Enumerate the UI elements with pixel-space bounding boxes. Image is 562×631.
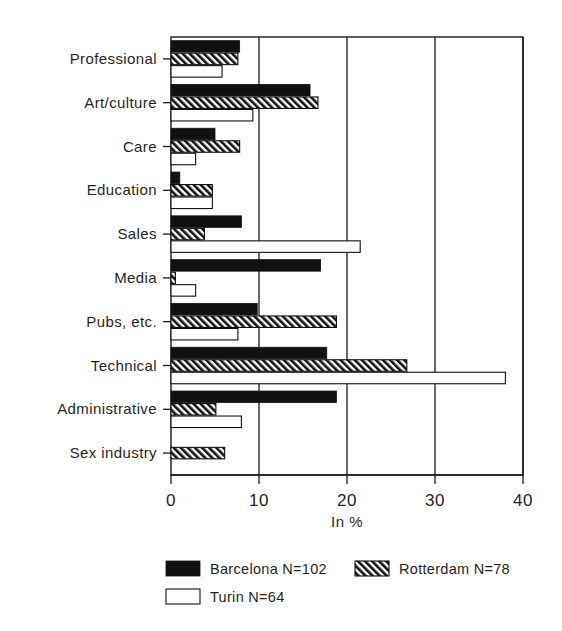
- bar-barcelona-art-culture: [171, 84, 310, 96]
- y-axis-labels: ProfessionalArt/cultureCareEducationSale…: [57, 50, 171, 461]
- x-tick-label-10: 10: [249, 491, 269, 510]
- bar-turin-art-culture: [171, 109, 253, 121]
- bar-rotterdam-administrative: [171, 404, 216, 416]
- legend-label-turin: Turin N=64: [210, 589, 285, 605]
- category-label-education: Education: [87, 181, 157, 198]
- bar-barcelona-pubs-etc: [171, 303, 257, 315]
- x-tick-label-0: 0: [166, 491, 176, 510]
- category-label-care: Care: [123, 138, 157, 155]
- bar-rotterdam-care: [171, 141, 240, 153]
- category-label-sex-industry: Sex industry: [70, 444, 157, 461]
- bar-barcelona-media: [171, 260, 321, 272]
- bar-turin-education: [171, 197, 212, 209]
- bar-rotterdam-professional: [171, 53, 238, 65]
- category-label-professional: Professional: [70, 50, 157, 67]
- category-label-art-culture: Art/culture: [84, 94, 157, 111]
- category-label-administrative: Administrative: [57, 400, 157, 417]
- bar-barcelona-administrative: [171, 391, 336, 403]
- category-label-pubs-etc: Pubs, etc.: [86, 313, 157, 330]
- legend-swatch-barcelona: [166, 561, 200, 576]
- bar-barcelona-professional: [171, 41, 240, 53]
- chart-container: ProfessionalArt/cultureCareEducationSale…: [0, 0, 562, 631]
- bars-layer: [171, 41, 505, 459]
- bar-turin-sales: [171, 241, 360, 253]
- legend-label-rotterdam: Rotterdam N=78: [399, 561, 510, 577]
- bar-turin-professional: [171, 66, 222, 78]
- bar-rotterdam-sex-industry: [171, 447, 225, 459]
- x-axis-title: In %: [331, 513, 363, 530]
- grouped-bar-chart: ProfessionalArt/cultureCareEducationSale…: [0, 0, 562, 631]
- bar-turin-technical: [171, 372, 505, 384]
- bar-rotterdam-art-culture: [171, 97, 318, 109]
- category-label-sales: Sales: [117, 225, 157, 242]
- category-label-media: Media: [114, 269, 157, 286]
- legend-label-barcelona: Barcelona N=102: [210, 561, 327, 577]
- bar-turin-administrative: [171, 416, 241, 428]
- bar-barcelona-education: [171, 172, 180, 184]
- bar-barcelona-technical: [171, 347, 327, 359]
- legend-swatch-rotterdam: [355, 561, 389, 576]
- chart-legend: Barcelona N=102Rotterdam N=78Turin N=64: [166, 561, 510, 605]
- bar-turin-pubs-etc: [171, 328, 238, 340]
- legend-swatch-turin: [166, 589, 200, 604]
- bar-turin-media: [171, 285, 196, 297]
- category-label-technical: Technical: [91, 357, 157, 374]
- bar-rotterdam-education: [171, 185, 212, 197]
- bar-rotterdam-sales: [171, 228, 204, 240]
- x-axis-ticks: 010203040: [166, 475, 533, 510]
- x-tick-label-20: 20: [337, 491, 357, 510]
- bar-rotterdam-pubs-etc: [171, 316, 336, 328]
- bar-rotterdam-media: [171, 272, 175, 284]
- x-tick-label-30: 30: [425, 491, 445, 510]
- x-tick-label-40: 40: [513, 491, 533, 510]
- bar-turin-care: [171, 153, 196, 165]
- bar-barcelona-sales: [171, 216, 241, 228]
- bar-rotterdam-technical: [171, 360, 407, 372]
- bar-barcelona-care: [171, 128, 215, 140]
